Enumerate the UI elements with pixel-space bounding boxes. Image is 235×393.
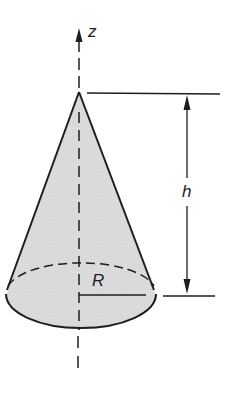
height-arrow-down-icon: [184, 279, 191, 294]
z-axis-label: z: [88, 23, 97, 40]
z-axis-arrow-icon: [76, 28, 83, 42]
cone-surface: [6, 92, 156, 329]
cone-figure: [0, 0, 235, 393]
height-label: h: [181, 182, 192, 201]
radius-label: R: [92, 272, 104, 289]
height-top-extension: [87, 93, 220, 94]
height-arrow-up-icon: [184, 95, 191, 110]
cone-diagram: z h R: [0, 0, 235, 393]
